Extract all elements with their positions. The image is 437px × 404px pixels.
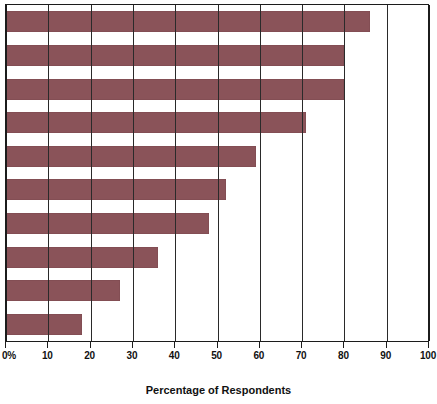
bar-row xyxy=(6,280,120,301)
gridline-70 xyxy=(302,5,303,341)
tick-100 xyxy=(428,342,429,348)
tick-label-50: 50 xyxy=(211,350,222,361)
bar xyxy=(6,213,209,234)
tick-label-0: 0% xyxy=(2,350,16,361)
tick-80 xyxy=(343,342,344,348)
tick-label-90: 90 xyxy=(380,350,391,361)
bar xyxy=(6,112,306,133)
bar xyxy=(6,280,120,301)
gridline-30 xyxy=(133,5,134,341)
tick-label-30: 30 xyxy=(127,350,138,361)
tick-10 xyxy=(47,342,48,348)
tick-0 xyxy=(5,342,6,348)
tick-label-20: 20 xyxy=(84,350,95,361)
gridline-100 xyxy=(429,5,430,341)
tick-70 xyxy=(301,342,302,348)
tick-20 xyxy=(90,342,91,348)
bar-row xyxy=(6,11,370,32)
gridline-10 xyxy=(48,5,49,341)
tick-label-80: 80 xyxy=(338,350,349,361)
tick-30 xyxy=(132,342,133,348)
gridline-90 xyxy=(387,5,388,341)
bar-row xyxy=(6,213,209,234)
gridline-60 xyxy=(260,5,261,341)
tick-40 xyxy=(174,342,175,348)
tick-90 xyxy=(386,342,387,348)
bar xyxy=(6,314,82,335)
gridline-40 xyxy=(175,5,176,341)
bar-row xyxy=(6,179,226,200)
bar-row xyxy=(6,247,158,268)
plot-frame xyxy=(5,4,429,342)
x-axis-ticks xyxy=(5,342,429,350)
plot-area xyxy=(6,5,428,341)
tick-50 xyxy=(217,342,218,348)
bar-row xyxy=(6,314,82,335)
tick-label-70: 70 xyxy=(296,350,307,361)
gridline-0 xyxy=(6,5,7,341)
tick-label-60: 60 xyxy=(253,350,264,361)
tick-label-40: 40 xyxy=(169,350,180,361)
tick-label-10: 10 xyxy=(42,350,53,361)
bar xyxy=(6,247,158,268)
x-axis-title: Percentage of Respondents xyxy=(0,384,437,396)
tick-label-100: 100 xyxy=(420,350,436,361)
tick-60 xyxy=(259,342,260,348)
gridline-80 xyxy=(344,5,345,341)
bar-chart: 0%102030405060708090100 Percentage of Re… xyxy=(0,0,437,404)
x-axis-tick-labels: 0%102030405060708090100 xyxy=(0,350,437,366)
bar xyxy=(6,179,226,200)
gridline-20 xyxy=(91,5,92,341)
bar-row xyxy=(6,112,306,133)
gridline-50 xyxy=(218,5,219,341)
bar xyxy=(6,11,370,32)
